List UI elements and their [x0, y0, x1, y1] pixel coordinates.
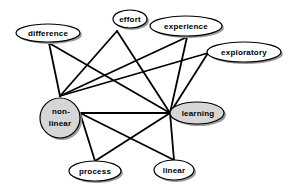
node-label: experience — [164, 22, 208, 31]
concept-map: difference effort experience exploratory… — [0, 0, 298, 190]
edge-nonlinear-experience — [60, 37, 187, 96]
node-shape — [40, 98, 80, 138]
node-learning[interactable]: learning — [170, 102, 226, 126]
node-label: exploratory — [221, 48, 267, 57]
node-label: process — [79, 167, 111, 176]
edges — [49, 31, 208, 161]
node-label: effort — [119, 15, 141, 24]
edge-learning-experience — [170, 37, 187, 113]
node-label: difference — [28, 29, 69, 38]
edge-learning-process — [95, 113, 170, 161]
node-non-linear[interactable]: non- linear — [40, 98, 82, 140]
node-experience[interactable]: experience — [150, 16, 224, 38]
edge-learning-linear — [170, 113, 174, 160]
node-difference[interactable]: difference — [16, 24, 82, 44]
edge-difference-nonlinear — [49, 43, 60, 96]
node-label: learning — [182, 109, 215, 118]
node-label: linear — [163, 166, 186, 175]
edge-learning-effort — [117, 31, 170, 113]
node-linear[interactable]: linear — [154, 160, 196, 182]
node-label-line2: linear — [49, 119, 72, 128]
node-exploratory[interactable]: exploratory — [207, 42, 283, 64]
node-effort[interactable]: effort — [113, 10, 149, 30]
node-process[interactable]: process — [69, 161, 123, 183]
node-label-line1: non- — [52, 107, 70, 116]
